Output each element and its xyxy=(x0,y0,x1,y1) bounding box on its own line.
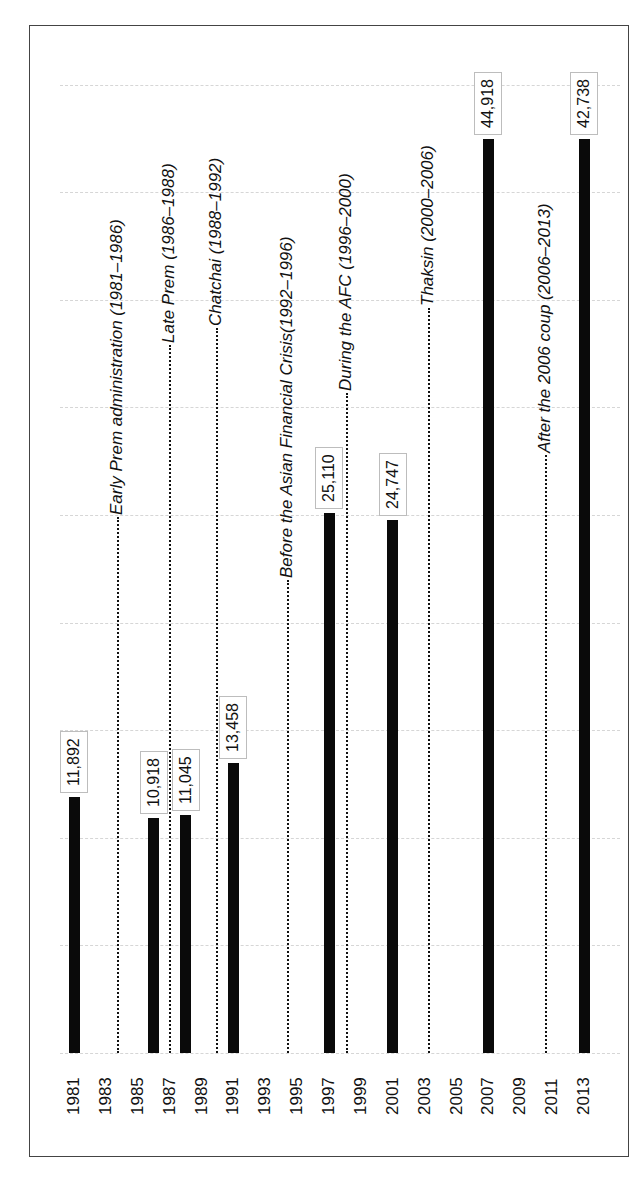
period-label: Before the Asian Financial Crisis(1992–1… xyxy=(278,237,296,578)
period-label: Late Prem (1986–1988) xyxy=(160,163,178,343)
value-label-2007: 44,918 xyxy=(474,72,502,135)
bar-2013 xyxy=(579,139,590,1053)
period-divider-line xyxy=(216,328,218,1053)
period-divider-line xyxy=(346,393,348,1053)
gridline xyxy=(60,623,620,624)
x-tick-label: 1999 xyxy=(352,1077,370,1115)
period-label: Chatchai (1988–1992) xyxy=(207,158,225,326)
gridline xyxy=(60,730,620,731)
period-label: After the 2006 coup (2006–2013) xyxy=(536,203,554,453)
period-label: During the AFC (1996–2000) xyxy=(337,173,355,391)
bar-2007 xyxy=(483,139,494,1053)
value-label-2001: 24,747 xyxy=(379,454,407,517)
x-tick-label: 1983 xyxy=(97,1077,115,1115)
value-label-1991: 13,458 xyxy=(219,696,247,759)
bar-1981 xyxy=(69,797,80,1053)
gridline xyxy=(60,85,620,86)
gridline xyxy=(60,515,620,516)
bar-1991 xyxy=(228,763,239,1053)
period-label: Early Prem administration (1981–1986) xyxy=(108,219,126,515)
x-tick-label: 2013 xyxy=(575,1077,593,1115)
x-tick-label: 1995 xyxy=(288,1077,306,1115)
value-label-2013: 42,738 xyxy=(570,72,598,135)
x-tick-label: 2009 xyxy=(511,1077,529,1115)
x-tick-label: 2005 xyxy=(448,1077,466,1115)
x-tick-label: 2011 xyxy=(543,1078,561,1115)
period-divider-line xyxy=(117,517,119,1053)
period-divider-line xyxy=(545,455,547,1053)
value-label-1988: 11,045 xyxy=(172,750,200,812)
x-tick-label: 1991 xyxy=(224,1077,242,1115)
period-divider-line xyxy=(428,308,430,1053)
value-label-1986: 10,918 xyxy=(140,751,168,814)
gridline xyxy=(60,838,620,839)
x-tick-label: 2001 xyxy=(384,1077,402,1115)
period-divider-line xyxy=(169,345,171,1053)
x-tick-label: 2007 xyxy=(479,1077,497,1115)
x-tick-label: 1997 xyxy=(320,1077,338,1115)
x-tick-label: 1989 xyxy=(193,1077,211,1115)
period-label: Thaksin (2000–2006) xyxy=(419,145,437,306)
x-tick-label: 1981 xyxy=(65,1077,83,1115)
value-label-1981: 11,892 xyxy=(60,731,88,793)
x-tick-label: 1985 xyxy=(129,1077,147,1115)
baseline xyxy=(60,1053,620,1054)
bar-1986 xyxy=(148,818,159,1053)
value-label-1997: 25,110 xyxy=(315,447,343,509)
bar-1997 xyxy=(324,513,335,1053)
x-tick-label: 2003 xyxy=(416,1077,434,1115)
bar-1988 xyxy=(180,815,191,1053)
gridline xyxy=(60,945,620,946)
x-tick-label: 1993 xyxy=(256,1077,274,1115)
period-divider-line xyxy=(287,580,289,1053)
bar-2001 xyxy=(387,520,398,1053)
x-tick-label: 1987 xyxy=(161,1077,179,1115)
